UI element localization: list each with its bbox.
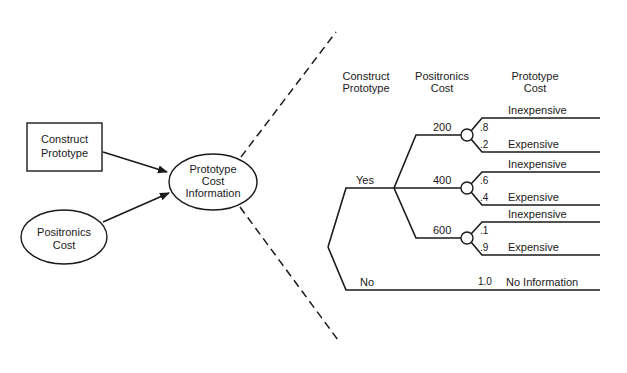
decision-node-label: Prototype [41,147,88,159]
expansion-dashed-line-lower [240,207,338,340]
outcome-branch-inexpensive [471,118,600,131]
diagram-canvas: Construct Prototype Positronics Cost Pro… [0,0,627,373]
chance-node-circle [461,129,473,141]
uncertainty-node-label: Cost [202,175,225,187]
column-header: Cost [431,82,454,94]
chance-node-circle [461,182,473,194]
cost-label: 200 [433,121,451,133]
decision-node-label: Construct [41,133,88,145]
branch-label-no: No [360,276,374,288]
outcome-branch-inexpensive [471,172,600,184]
probability-label: .1 [480,225,489,236]
influence-diagram: Construct Prototype Positronics Cost Pro… [21,123,257,264]
outcome-label: Expensive [508,138,559,150]
outcome-label: Inexpensive [508,158,567,170]
decision-tree: Construct Prototype Positronics Cost Pro… [328,70,600,290]
expansion-dashed-line-upper [241,32,336,157]
chance-node-200: .8 .2 Inexpensive Expensive [461,104,600,152]
influence-arrow [103,193,169,222]
outcome-label-no-information: No Information [506,276,578,288]
outcome-label: Inexpensive [508,104,567,116]
column-header: Prototype [342,82,389,94]
uncertainty-node-label: Positronics [37,226,91,238]
tree-column-headers: Construct Prototype Positronics Cost Pro… [342,70,558,94]
probability-label: .9 [480,242,489,253]
branch-label-yes: Yes [356,174,374,186]
column-header: Prototype [511,70,558,82]
column-header: Construct [342,70,389,82]
outcome-label: Expensive [508,241,559,253]
outcome-label: Expensive [508,191,559,203]
decision-node-construct-prototype: Construct Prototype [27,123,102,171]
probability-label: .2 [480,139,489,150]
uncertainty-node-prototype-cost-information: Prototype Cost Information [169,154,257,210]
column-header: Positronics [415,70,469,82]
uncertainty-node-positronics-cost: Positronics Cost [21,210,107,264]
probability-label: 1.0 [478,276,492,287]
probability-label: .4 [480,192,489,203]
branch-yes [328,188,394,247]
uncertainty-node-label: Prototype [189,163,236,175]
chance-node-circle [461,232,473,244]
column-header: Cost [524,82,547,94]
chance-node-400: .6 .4 Inexpensive Expensive [461,158,600,205]
uncertainty-node-label: Information [185,187,240,199]
cost-label: 400 [433,174,451,186]
probability-label: .6 [480,175,489,186]
influence-arrow [103,152,167,172]
chance-node-600: .1 .9 Inexpensive Expensive [461,208,600,255]
uncertainty-node-label: Cost [53,239,76,251]
cost-label: 600 [433,224,451,236]
outcome-label: Inexpensive [508,208,567,220]
probability-label: .8 [480,122,489,133]
outcome-branch-inexpensive [471,222,600,234]
